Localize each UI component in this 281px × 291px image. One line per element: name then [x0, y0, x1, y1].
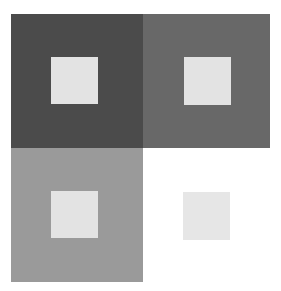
- inner-square-bottom-left: [51, 191, 98, 238]
- inner-square-top-left: [51, 57, 98, 104]
- cell-bottom-right: [143, 148, 270, 282]
- cell-bottom-left: [11, 148, 143, 282]
- cell-top-right: [143, 14, 270, 148]
- inner-square-bottom-right: [183, 192, 230, 240]
- inner-square-top-right: [184, 57, 231, 105]
- cell-top-left: [11, 14, 143, 148]
